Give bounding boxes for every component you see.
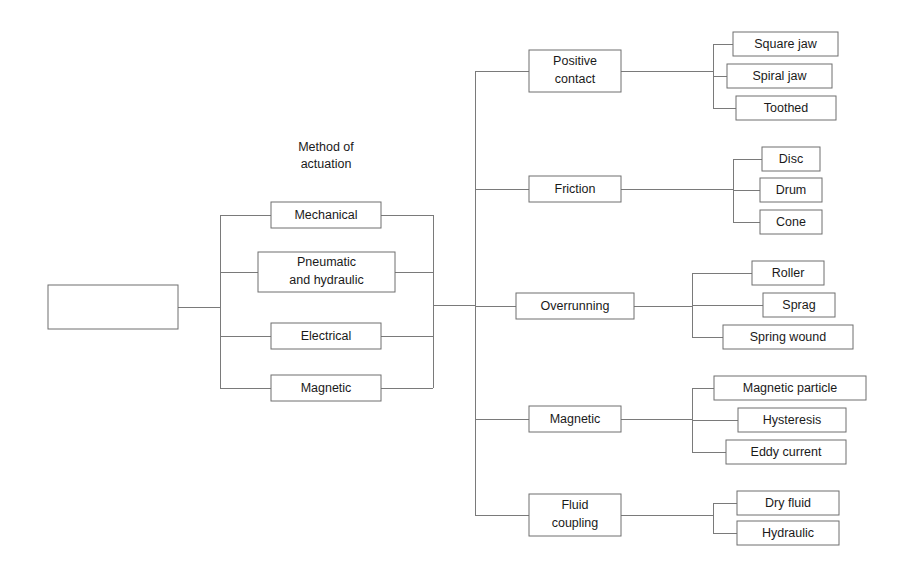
heading-actuation-heading: Method ofactuation — [298, 140, 354, 171]
node-magnetic-actuation[interactable]: Magnetic — [271, 375, 381, 401]
heading-actuation-heading-line2: actuation — [301, 157, 352, 171]
node-pneumatic-and-hydraulic[interactable]: Pneumaticand hydraulic — [258, 252, 395, 292]
node-friction[interactable]: Friction — [529, 176, 621, 202]
node-fluid-coupling[interactable]: Fluidcoupling — [529, 494, 621, 536]
node-hydraulic-label: Hydraulic — [762, 526, 814, 540]
node-sprag-label: Sprag — [782, 298, 815, 312]
node-positive-contact[interactable]: Positivecontact — [529, 50, 621, 92]
node-method-of-engagement-rect[interactable] — [48, 285, 178, 329]
node-drum[interactable]: Drum — [760, 178, 822, 202]
node-method-of-engagement[interactable] — [48, 285, 178, 329]
node-sprag[interactable]: Sprag — [763, 293, 835, 317]
node-electrical-label: Electrical — [301, 329, 352, 343]
node-friction-label: Friction — [555, 182, 596, 196]
node-overrunning-label: Overrunning — [541, 299, 610, 313]
node-square-jaw[interactable]: Square jaw — [733, 32, 838, 56]
node-hysteresis-label: Hysteresis — [763, 413, 821, 427]
node-mechanical-label: Mechanical — [294, 208, 357, 222]
node-roller-label: Roller — [772, 266, 805, 280]
node-positive-contact-label-line1: Positive — [553, 54, 597, 68]
node-fluid-coupling-label-line1: Fluid — [561, 498, 588, 512]
node-spiral-jaw[interactable]: Spiral jaw — [727, 64, 832, 88]
tree-svg: MechanicalPneumaticand hydraulicElectric… — [0, 0, 901, 579]
node-spiral-jaw-label: Spiral jaw — [752, 69, 807, 83]
node-cone-label: Cone — [776, 215, 806, 229]
titles-layer: Method ofactuation — [298, 140, 354, 171]
node-drum-label: Drum — [776, 183, 807, 197]
node-eddy-current[interactable]: Eddy current — [726, 440, 846, 464]
node-spring-wound-label: Spring wound — [750, 330, 826, 344]
node-dry-fluid-label: Dry fluid — [765, 496, 811, 510]
node-eddy-current-label: Eddy current — [751, 445, 822, 459]
node-spring-wound[interactable]: Spring wound — [723, 325, 853, 349]
node-pneumatic-and-hydraulic-label-line2: and hydraulic — [289, 273, 363, 287]
node-magnetic-particle[interactable]: Magnetic particle — [714, 376, 866, 400]
heading-actuation-heading-line1: Method of — [298, 140, 354, 154]
node-hysteresis[interactable]: Hysteresis — [738, 408, 846, 432]
nodes-layer: MechanicalPneumaticand hydraulicElectric… — [48, 32, 866, 545]
node-magnetic-particle-label: Magnetic particle — [743, 381, 838, 395]
node-disc[interactable]: Disc — [762, 147, 820, 171]
node-mechanical[interactable]: Mechanical — [271, 202, 381, 228]
node-cone[interactable]: Cone — [760, 210, 822, 234]
node-hydraulic[interactable]: Hydraulic — [737, 521, 839, 545]
node-magnetic-type[interactable]: Magnetic — [529, 406, 621, 432]
node-pneumatic-and-hydraulic-label-line1: Pneumatic — [297, 255, 356, 269]
node-toothed[interactable]: Toothed — [736, 96, 836, 120]
node-disc-label: Disc — [779, 152, 803, 166]
node-dry-fluid[interactable]: Dry fluid — [737, 491, 839, 515]
node-roller[interactable]: Roller — [752, 261, 824, 285]
node-toothed-label: Toothed — [764, 101, 809, 115]
node-overrunning[interactable]: Overrunning — [516, 293, 634, 319]
node-positive-contact-label-line2: contact — [555, 72, 596, 86]
node-magnetic-type-label: Magnetic — [550, 412, 601, 426]
node-electrical[interactable]: Electrical — [271, 323, 381, 349]
node-magnetic-actuation-label: Magnetic — [301, 381, 352, 395]
node-square-jaw-label: Square jaw — [754, 37, 818, 51]
clutch-classification-diagram: MechanicalPneumaticand hydraulicElectric… — [0, 0, 901, 579]
node-fluid-coupling-label-line2: coupling — [552, 516, 599, 530]
